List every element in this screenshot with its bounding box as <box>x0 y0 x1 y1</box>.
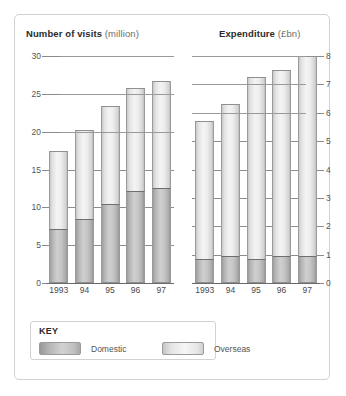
bar-segment-domestic-expenditure-95 <box>247 259 266 283</box>
bar-number-of-visits-94 <box>75 130 94 283</box>
y-axis-label-number-of-visits-5: 5 <box>36 240 41 250</box>
tick-mark-number-of-visits-15 <box>42 170 46 171</box>
gridline-extension-visits-20 <box>60 132 174 133</box>
bar-expenditure-95 <box>247 77 266 283</box>
gridline-extension-visits-30 <box>60 56 174 57</box>
bar-number-of-visits-1993 <box>49 151 68 283</box>
tick-mark-expenditure-5 <box>320 141 324 142</box>
tick-mark-expenditure-0 <box>320 283 324 284</box>
tick-mark-expenditure-3 <box>320 198 324 199</box>
plot-area-expenditure: 012345678 199394959697 <box>192 56 320 283</box>
tick-mark-number-of-visits-10 <box>42 207 46 208</box>
y-axis-label-number-of-visits-25: 25 <box>32 89 41 99</box>
bar-segment-overseas-expenditure-95 <box>247 77 266 259</box>
bar-segment-overseas-expenditure-96 <box>272 70 291 256</box>
legend-key-box: KEY Domestic Overseas <box>30 321 216 360</box>
bar-segment-overseas-number-of-visits-95 <box>101 106 120 204</box>
chart-title-expenditure-unit: (£bn) <box>278 28 301 39</box>
chart-title-visits: Number of visits (million) <box>26 28 139 39</box>
legend-swatch-domestic <box>39 342 81 355</box>
y-axis-label-expenditure-6: 6 <box>326 108 331 118</box>
tick-mark-expenditure-6 <box>320 113 324 114</box>
bar-expenditure-94 <box>221 104 240 283</box>
bar-segment-overseas-expenditure-94 <box>221 104 240 256</box>
bar-segment-domestic-expenditure-94 <box>221 256 240 283</box>
chart-title-expenditure-text: Expenditure <box>219 28 275 39</box>
chart-figure: Number of visits (million) Expenditure (… <box>0 0 346 396</box>
gridline-expenditure-0 <box>192 283 320 284</box>
bar-expenditure-97 <box>298 56 317 283</box>
y-axis-label-expenditure-0: 0 <box>326 278 331 288</box>
bar-segment-domestic-number-of-visits-95 <box>101 204 120 283</box>
y-axis-label-number-of-visits-20: 20 <box>32 127 41 137</box>
bar-segment-domestic-expenditure-96 <box>272 256 291 283</box>
bar-segment-domestic-number-of-visits-1993 <box>49 229 68 283</box>
tick-mark-expenditure-8 <box>320 56 324 57</box>
x-axis-label-expenditure-97: 97 <box>292 285 322 295</box>
bar-segment-domestic-number-of-visits-96 <box>126 191 145 283</box>
chart-title-visits-unit: (million) <box>105 28 139 39</box>
gridline-extension-visits-25 <box>60 94 174 95</box>
bar-segment-domestic-expenditure-1993 <box>195 259 214 283</box>
gridline-extension-expenditure-8 <box>192 56 306 57</box>
x-axis-label-number-of-visits-97: 97 <box>146 285 176 295</box>
y-axis-label-expenditure-3: 3 <box>326 193 331 203</box>
y-axis-label-number-of-visits-15: 15 <box>32 165 41 175</box>
gridline-extension-expenditure-7 <box>192 84 306 85</box>
chart-title-expenditure: Expenditure (£bn) <box>219 28 300 39</box>
bar-number-of-visits-97 <box>152 81 171 283</box>
tick-mark-expenditure-1 <box>320 255 324 256</box>
bar-segment-overseas-number-of-visits-96 <box>126 88 145 191</box>
tick-mark-expenditure-7 <box>320 84 324 85</box>
chart-title-visits-text: Number of visits <box>26 28 102 39</box>
bar-number-of-visits-96 <box>126 88 145 283</box>
tick-mark-number-of-visits-30 <box>42 56 46 57</box>
y-axis-label-number-of-visits-10: 10 <box>32 202 41 212</box>
tick-mark-expenditure-2 <box>320 226 324 227</box>
bar-segment-overseas-expenditure-1993 <box>195 121 214 259</box>
y-axis-label-expenditure-5: 5 <box>326 136 331 146</box>
bar-segment-overseas-number-of-visits-94 <box>75 130 94 219</box>
legend-swatch-overseas <box>162 342 204 355</box>
y-axis-label-number-of-visits-30: 30 <box>32 51 41 61</box>
tick-mark-number-of-visits-25 <box>42 94 46 95</box>
bar-segment-domestic-expenditure-97 <box>298 256 317 283</box>
bar-segment-overseas-expenditure-97 <box>298 56 317 256</box>
bar-segment-overseas-number-of-visits-97 <box>152 81 171 188</box>
plot-area-visits: 051015202530 199394959697 <box>46 56 174 283</box>
bar-segment-domestic-number-of-visits-97 <box>152 188 171 283</box>
bar-expenditure-1993 <box>195 121 214 283</box>
y-axis-label-expenditure-2: 2 <box>326 221 331 231</box>
tick-mark-number-of-visits-0 <box>42 283 46 284</box>
tick-mark-number-of-visits-5 <box>42 245 46 246</box>
legend-title: KEY <box>39 326 58 336</box>
legend-label-overseas: Overseas <box>214 344 250 354</box>
y-axis-label-expenditure-1: 1 <box>326 250 331 260</box>
y-axis-label-expenditure-7: 7 <box>326 79 331 89</box>
bar-segment-domestic-number-of-visits-94 <box>75 219 94 283</box>
tick-mark-number-of-visits-20 <box>42 132 46 133</box>
y-axis-label-expenditure-8: 8 <box>326 51 331 61</box>
gridline-extension-expenditure-6 <box>192 113 306 114</box>
legend-label-domestic: Domestic <box>91 344 126 354</box>
tick-mark-expenditure-4 <box>320 170 324 171</box>
gridline-number-of-visits-0 <box>46 283 174 284</box>
y-axis-label-number-of-visits-0: 0 <box>36 278 41 288</box>
bar-expenditure-96 <box>272 70 291 283</box>
bar-segment-overseas-number-of-visits-1993 <box>49 151 68 229</box>
y-axis-label-expenditure-4: 4 <box>326 165 331 175</box>
